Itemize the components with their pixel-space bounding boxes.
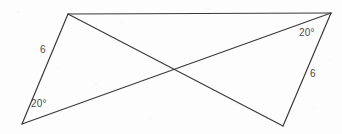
lower-transversal xyxy=(22,13,331,124)
upper-transversal xyxy=(68,13,331,14)
geometry-figure: 6 20° 20° 6 xyxy=(0,0,342,134)
right-side-length-label: 6 xyxy=(310,69,316,79)
left-side-length-label: 6 xyxy=(40,45,46,55)
lower-left-to-right-bottom xyxy=(68,14,283,126)
right-angle-label: 20° xyxy=(299,28,315,38)
geometry-canvas xyxy=(0,0,342,134)
left-angle-label: 20° xyxy=(31,99,47,109)
segment-group xyxy=(22,13,331,126)
